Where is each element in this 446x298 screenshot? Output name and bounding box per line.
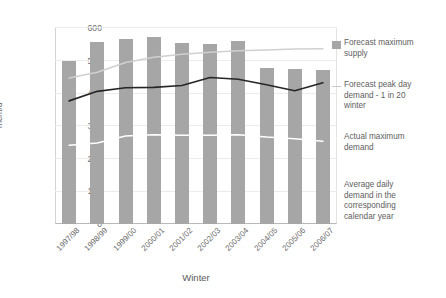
y-axis-title: mcm/d [0, 103, 4, 129]
legend-label: Actual maximum demand [344, 132, 405, 153]
legend-item-forecast-peak-day-demand: Forecast peak day demand - 1 in 20 winte… [332, 80, 411, 112]
legend-label: Forecast maximum supply [344, 38, 414, 59]
chart-page: 600 500 400 300 200 100 0 mcm/d 1997/981… [0, 0, 446, 298]
line-series [69, 49, 323, 78]
x-axis-title: Winter [0, 272, 392, 283]
line-series [69, 135, 323, 146]
x-axis-labels: 1997/981998/991999/002000/012001/022002/… [55, 226, 337, 274]
legend-item-actual-maximum-demand: Actual maximum demand [332, 132, 405, 153]
legend-line-icon [332, 86, 341, 87]
line-series [69, 78, 323, 101]
line-series-group [55, 27, 337, 224]
plot-area [55, 27, 337, 224]
legend-item-forecast-maximum-supply: Forecast maximum supply [332, 38, 414, 59]
legend-item-average-daily-demand: Average daily demand in the correspondin… [332, 180, 396, 222]
legend-swatch-icon [332, 41, 341, 49]
legend-label: Average daily demand in the correspondin… [344, 180, 396, 222]
legend-blank-icon [332, 183, 341, 191]
legend-line-icon [332, 138, 341, 139]
legend-label: Forecast peak day demand - 1 in 20 winte… [344, 80, 411, 112]
